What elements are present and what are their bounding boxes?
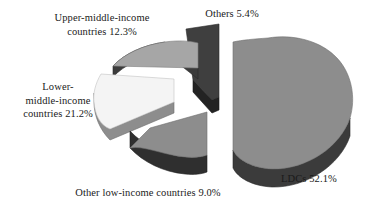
- slice-label-lower-middle-income: Lower- middle-income countries 21.2%: [6, 80, 110, 121]
- slice-label-others: Others 5.4%: [184, 7, 280, 21]
- slice-label-upper-middle-income: Upper-middle-income countries 12.3%: [36, 11, 168, 38]
- slice-label-lower-middle-income-line3: countries 21.2%: [6, 107, 110, 121]
- pie-slice-upper-middle: [113, 41, 198, 79]
- slice-label-ldcs: LDCs 52.1%: [281, 172, 367, 186]
- pie-slice-ldcs: [233, 37, 353, 187]
- pie-slice-upper-middle-top: [113, 41, 198, 68]
- slice-label-upper-middle-income-line2: countries 12.3%: [36, 25, 168, 39]
- slice-label-lower-middle-income-line1: Lower-: [6, 80, 110, 94]
- slice-label-upper-middle-income-line1: Upper-middle-income: [36, 11, 168, 25]
- slice-label-other-low-income: Other low-income countries 9.0%: [55, 186, 241, 200]
- slice-label-lower-middle-income-line2: middle-income: [6, 94, 110, 108]
- pie-chart-figure: Upper-middle-income countries 12.3% Lowe…: [0, 0, 371, 208]
